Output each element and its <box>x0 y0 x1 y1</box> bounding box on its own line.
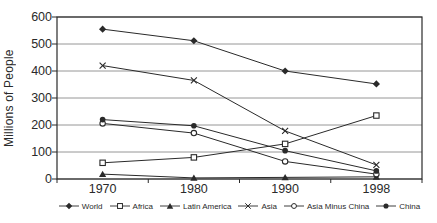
asia-minus-china-marker-icon <box>284 201 304 211</box>
y-tick-label-500: 500 <box>16 38 52 51</box>
china-marker-icon <box>376 201 396 211</box>
y-tick-label-600: 600 <box>16 11 52 24</box>
africa-marker-icon <box>110 201 130 211</box>
legend-item-africa: Africa <box>110 201 153 211</box>
x-tick-label-1970: 1970 <box>81 182 125 196</box>
legend-label-africa: Africa <box>133 202 153 211</box>
legend-label-asia-minus-china: Asia Minus China <box>307 202 369 211</box>
y-tick-label-0: 0 <box>16 173 52 186</box>
world-marker-icon <box>59 201 79 211</box>
y-tick-label-300: 300 <box>16 92 52 105</box>
legend: World Africa Latin America Asia Asia Min… <box>57 199 422 213</box>
y-axis-title: Millions of People <box>1 17 16 179</box>
y-tick-label-400: 400 <box>16 65 52 78</box>
legend-item-china: China <box>376 201 420 211</box>
latin-america-marker-icon <box>160 201 180 211</box>
y-tick-label-200: 200 <box>16 119 52 132</box>
y-tick-label-100: 100 <box>16 146 52 159</box>
legend-label-latin-america: Latin America <box>183 202 231 211</box>
legend-label-world: World <box>82 202 103 211</box>
legend-label-china: China <box>399 202 420 211</box>
x-tick-label-1990: 1990 <box>263 182 307 196</box>
legend-item-latin-america: Latin America <box>160 201 231 211</box>
line-chart-figure: Millions of People 600 500 400 300 200 1… <box>0 0 437 223</box>
x-tick-label-1980: 1980 <box>172 182 216 196</box>
legend-item-asia: Asia <box>238 201 277 211</box>
legend-item-asia-minus-china: Asia Minus China <box>284 201 369 211</box>
asia-marker-icon <box>238 201 258 211</box>
legend-item-world: World <box>59 201 103 211</box>
legend-label-asia: Asia <box>261 202 277 211</box>
x-tick-label-1998: 1998 <box>354 182 398 196</box>
